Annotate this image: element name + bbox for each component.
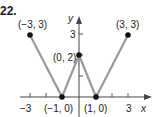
x-tick-label-neg3: −3 (20, 103, 32, 114)
label-point-neg1-0: (−1, 0) (44, 103, 73, 114)
point-0-2 (76, 52, 82, 58)
point-neg1-0 (59, 94, 65, 100)
label-point-neg3-3: (−3, 3) (18, 19, 47, 30)
x-tick-label-3: 3 (126, 103, 132, 114)
x-axis-arrow-icon (144, 94, 152, 100)
graph: (−3, 3) (−1, 0) (0, 2) (1, 0) (3, 3) −3 … (0, 0, 155, 117)
point-neg3-3 (27, 32, 33, 38)
y-axis-label: y (67, 13, 74, 24)
x-axis-label: x (140, 103, 147, 114)
point-3-3 (125, 32, 131, 38)
y-axis (76, 16, 82, 117)
y-axis-arrow-icon (76, 16, 82, 24)
label-point-0-2: (0, 2) (53, 52, 76, 63)
y-tick-label-3: 3 (70, 29, 76, 40)
label-point-1-0: (1, 0) (84, 103, 107, 114)
point-1-0 (93, 94, 99, 100)
label-point-3-3: (3, 3) (116, 19, 139, 30)
x-axis (20, 94, 152, 100)
